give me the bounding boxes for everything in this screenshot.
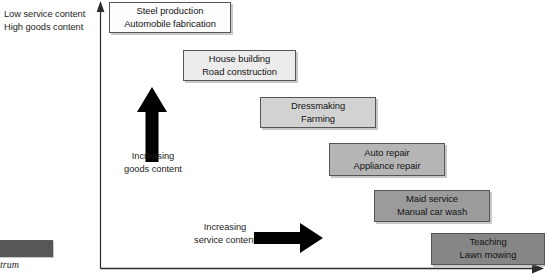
category-box-auto-repair: Auto repair Appliance repair xyxy=(329,143,445,176)
category-box-teaching: Teaching Lawn mowing xyxy=(431,233,545,265)
increasing-service-line-1: Increasing xyxy=(181,221,269,234)
increasing-service-line-2: service content xyxy=(181,234,269,247)
category-line-1: Dressmaking xyxy=(291,100,345,113)
category-line-2: Lawn mowing xyxy=(460,249,517,262)
increasing-goods-line-2: goods content xyxy=(109,163,197,176)
category-box-dressmaking: Dressmaking Farming xyxy=(260,97,376,128)
corner-label: Low service content High goods content xyxy=(4,8,98,33)
category-box-maid-service: Maid service Manual car wash xyxy=(374,190,490,222)
category-line-1: Maid service xyxy=(406,193,458,206)
category-line-2: Automobile fabrication xyxy=(124,18,216,31)
increasing-goods-line-1: Increasing xyxy=(109,150,197,163)
category-line-1: Teaching xyxy=(469,236,506,249)
corner-label-line-2: High goods content xyxy=(4,21,98,34)
category-line-1: Steel production xyxy=(137,5,204,18)
corner-label-line-1: Low service content xyxy=(4,8,98,21)
category-line-2: Farming xyxy=(301,113,335,126)
caption-text: trum xyxy=(0,259,19,271)
category-line-2: Road construction xyxy=(202,66,277,79)
category-box-house-building: House building Road construction xyxy=(183,50,296,81)
category-line-2: Appliance repair xyxy=(354,160,421,173)
caption-color-bar xyxy=(0,240,53,257)
category-line-1: House building xyxy=(209,53,270,66)
category-line-1: Auto repair xyxy=(364,147,409,160)
figure-canvas: Low service content High goods content I… xyxy=(0,0,545,278)
category-line-2: Manual car wash xyxy=(397,206,467,219)
increasing-goods-label: Increasing goods content xyxy=(109,150,197,175)
increasing-service-label: Increasing service content xyxy=(181,221,269,246)
category-box-steel-production: Steel production Automobile fabrication xyxy=(109,2,231,33)
